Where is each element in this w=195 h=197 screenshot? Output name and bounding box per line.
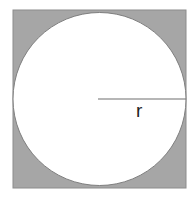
radius-label: r [136,100,143,121]
circle-in-square-diagram: r [0,0,195,197]
